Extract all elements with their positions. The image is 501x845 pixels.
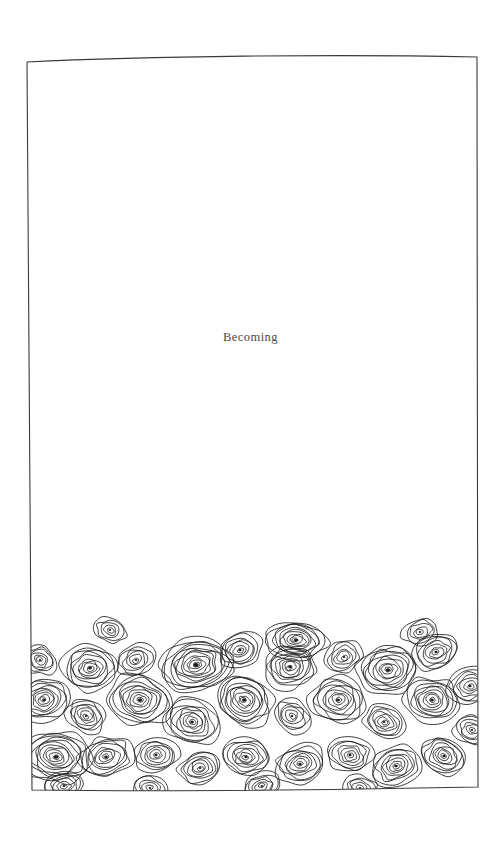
ring-cell-core (109, 629, 111, 631)
ring-cell-core (242, 698, 246, 701)
ring-cell-core (471, 729, 474, 731)
ring-cell-core (154, 754, 157, 756)
ring-cell-core (138, 698, 142, 702)
ring-cell-core (39, 659, 41, 661)
ring-cell-core (199, 767, 202, 769)
ring-cell-core (238, 649, 241, 651)
ring-cell-core (288, 666, 292, 669)
ring-cell-core (88, 666, 92, 669)
ring-cell-core (63, 785, 66, 787)
ring-cell-core (294, 639, 298, 642)
illustration-artboard (0, 0, 501, 845)
ring-cell-core (430, 698, 434, 701)
ring-cell-core (434, 651, 437, 654)
ring-cell-core (442, 755, 445, 758)
ring-cell-core (104, 756, 108, 759)
ring-cell-core (348, 754, 351, 756)
ring-cell-core (54, 755, 59, 759)
ring-cell-core (261, 785, 264, 787)
ring-cell-core (383, 721, 386, 723)
ring-cell-core (419, 631, 422, 633)
ring-cell-core (135, 659, 138, 661)
ring-cell-core (394, 765, 398, 768)
ring-cell-core (149, 787, 152, 789)
ring-cell-core (386, 668, 390, 671)
ring-cell-core (343, 656, 346, 658)
ring-cell-core (193, 663, 198, 667)
ring-cell-core (85, 715, 88, 717)
ring-cell-core (336, 698, 340, 701)
ring-cell-core (291, 715, 294, 717)
ring-cell-core (468, 685, 471, 688)
ring-cell-core (244, 756, 247, 759)
ring-cell-core (42, 699, 46, 702)
page-canvas: Becoming (0, 0, 501, 845)
ring-cell-core (298, 763, 302, 766)
ring-cell-core (190, 720, 194, 723)
